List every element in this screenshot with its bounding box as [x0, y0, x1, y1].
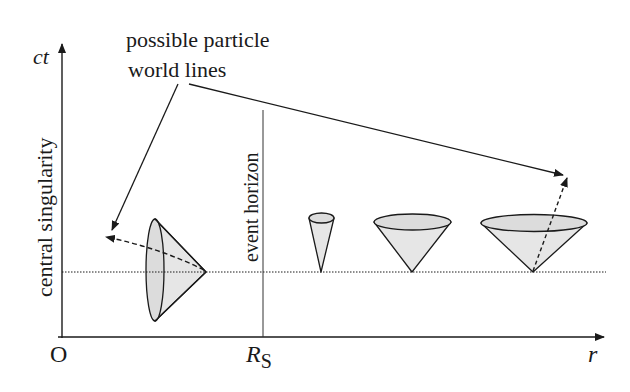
- x-axis-label: r: [588, 341, 598, 367]
- light-cone-diagram: ct r O RS central singularity event hori…: [0, 0, 630, 392]
- axes: [58, 44, 604, 338]
- light-cone-tipped: [106, 219, 206, 321]
- event-horizon-label: event horizon: [240, 153, 262, 262]
- annotation-arrow-left: [112, 84, 178, 230]
- y-axis-label: ct: [33, 44, 50, 69]
- light-cone-medium: [374, 214, 451, 272]
- origin-label: O: [50, 341, 67, 367]
- light-cone-narrow: [309, 213, 334, 272]
- cone-rim: [374, 214, 451, 230]
- central-singularity-label: central singularity: [32, 138, 57, 297]
- cone-rim: [146, 219, 164, 321]
- annotation-line-1: possible particle: [126, 27, 270, 52]
- annotation-line-2: world lines: [128, 57, 226, 82]
- rs-label: RS: [245, 341, 272, 372]
- cone-rim: [309, 213, 334, 223]
- rs-label-main: R: [245, 341, 261, 367]
- cone-body: [309, 218, 334, 272]
- light-cone-wide: [481, 178, 587, 272]
- cone-rim: [481, 215, 587, 232]
- rs-label-subscript: S: [261, 350, 272, 372]
